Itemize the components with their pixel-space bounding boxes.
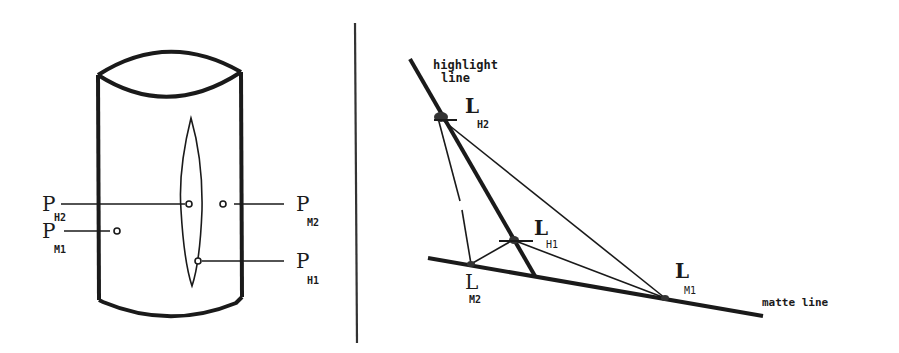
- label-pm1: P: [42, 219, 55, 243]
- label-lh2-sub: H2: [477, 119, 489, 130]
- point-lm2-marker: [467, 261, 475, 267]
- cylinder-right-wall: [241, 72, 242, 297]
- cylinder-top-ellipse: [98, 52, 241, 75]
- point-ph1-marker: [195, 258, 201, 264]
- label-pm2: P: [296, 192, 309, 216]
- cylinder-bottom-edge: [99, 297, 242, 316]
- label-ph2-sub: H2: [54, 212, 66, 223]
- label-lh1-sub: H1: [546, 239, 558, 250]
- panel-divider: [355, 23, 357, 343]
- label-lm2: L: [465, 270, 478, 294]
- matte-line-label: matte line: [762, 296, 829, 309]
- label-lm1: L: [675, 259, 689, 283]
- cylinder-diagram: P H2 P M1 P M2 P H1: [42, 52, 319, 317]
- cylinder-left-wall: [98, 75, 99, 300]
- connector-lh2-lm2-b: [462, 210, 471, 264]
- figure-canvas: P H2 P M1 P M2 P H1 highlight line L H2: [0, 0, 899, 353]
- point-pm2-marker: [220, 201, 226, 207]
- label-lh2: L: [465, 94, 479, 118]
- point-ph2-marker: [186, 201, 192, 207]
- point-lm1-marker: [661, 295, 669, 301]
- point-lh1-marker: [509, 236, 519, 244]
- cylinder-top-ellipse-lower: [98, 72, 241, 97]
- highlight-line-label-2: line: [441, 71, 470, 85]
- label-pm2-sub: M2: [307, 217, 319, 228]
- connector-lm2-lh1: [471, 240, 513, 264]
- connector-lh1-lm1: [513, 240, 665, 298]
- label-lm2-sub: M2: [469, 294, 481, 305]
- label-ph1: P: [296, 249, 309, 273]
- highlight-line-label-1: highlight: [433, 58, 498, 72]
- label-ph1-sub: H1: [307, 275, 319, 286]
- label-pm1-sub: M1: [54, 244, 66, 255]
- label-lm1-sub: M1: [684, 285, 696, 296]
- color-space-diagram: highlight line L H2 L H1 L M2 L M1 matte…: [410, 58, 829, 316]
- point-pm1-marker: [114, 228, 120, 234]
- label-lh1: L: [534, 216, 548, 240]
